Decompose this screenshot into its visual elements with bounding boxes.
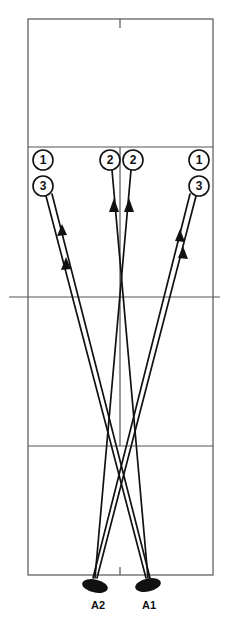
player-label: A1	[142, 599, 156, 611]
position-3-right: 3	[189, 176, 209, 196]
player-a2: A2	[81, 577, 109, 611]
arrowhead-icon	[178, 246, 188, 259]
player-marker-icon	[81, 577, 109, 595]
position-label: 1	[40, 153, 47, 167]
position-1-left: 1	[33, 150, 53, 170]
arrowhead-icon	[175, 229, 185, 242]
arrowhead-icon	[124, 198, 134, 212]
position-label: 2	[107, 153, 114, 167]
position-label: 2	[130, 153, 137, 167]
position-2-right: 2	[123, 150, 143, 170]
position-1-right: 1	[189, 150, 209, 170]
position-label: 3	[196, 179, 203, 193]
player-a1: A1	[134, 576, 162, 611]
position-label: 3	[40, 179, 47, 193]
player-marker-icon	[134, 576, 162, 594]
route-a1-to-1-left	[52, 194, 150, 578]
route-a2-to-1-right	[93, 194, 190, 578]
arrowhead-icon	[57, 224, 67, 236]
player-label: A2	[91, 599, 105, 611]
position-3-left: 3	[33, 176, 53, 196]
arrowhead-icon	[109, 198, 119, 212]
position-2-left: 2	[100, 150, 120, 170]
position-label: 1	[196, 153, 203, 167]
volleyball-court-diagram: 1 3 2 2 1 3 A2 A1	[0, 0, 228, 620]
